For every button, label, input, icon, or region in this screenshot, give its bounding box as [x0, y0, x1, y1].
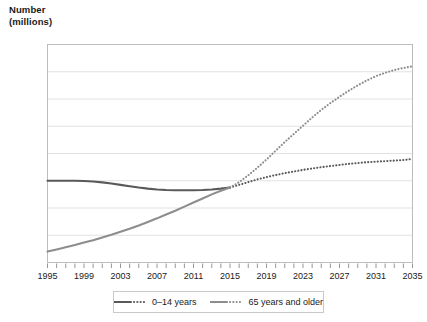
legend-item-0-14[interactable]: 0–14 years [114, 298, 197, 307]
x-axis-tick-label: 2027 [320, 272, 360, 281]
x-axis-tick-label: 2015 [210, 272, 250, 281]
x-axis-tick-label: 2003 [101, 272, 141, 281]
legend-item-65-plus[interactable]: 65 years and older [210, 298, 323, 307]
x-axis-tick-label: 2007 [137, 272, 177, 281]
chart-legend: 0–14 years 65 years and older [113, 291, 324, 313]
x-axis-tick-label: 2023 [283, 272, 323, 281]
legend-swatch-65-plus [210, 298, 244, 306]
legend-label-0-14: 0–14 years [152, 298, 197, 307]
x-axis-tick-label: 2031 [356, 272, 396, 281]
x-axis-tick-label: 2035 [393, 272, 427, 281]
legend-swatch-0-14 [114, 298, 148, 306]
x-axis-tick-label: 1999 [64, 272, 104, 281]
chart-container: Number (millions) 34567891011 1995199920… [0, 0, 427, 322]
x-axis-tick-label: 2019 [247, 272, 287, 281]
x-axis-tick-label: 1995 [28, 272, 68, 281]
x-axis-tick-labels: 1995199920032007201120152019202320272031… [0, 0, 427, 322]
legend-label-65-plus: 65 years and older [248, 298, 323, 307]
x-axis-tick-label: 2011 [174, 272, 214, 281]
